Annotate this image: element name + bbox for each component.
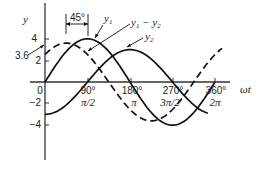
legend-y1-minus-y2: y1 − y2 (130, 16, 161, 30)
y-tick-label: −4 (30, 119, 42, 130)
legend-y2: y2 (144, 30, 154, 44)
peak-value-label: 3.6 (15, 50, 29, 61)
y-axis-label: y (22, 13, 28, 25)
phasor-sine-chart: 45° y1 y1 − y2 y2 y ωt 3.6 4 2 −2 −4 0 9… (0, 0, 272, 169)
x-tick-label: 180° (122, 85, 143, 96)
x-axis-label: ωt (240, 83, 252, 95)
x-tick-label: 0 (37, 85, 43, 96)
phase-bracket-label: 45° (70, 12, 85, 23)
legend-y1: y1 (103, 12, 112, 26)
y-tick-label: −2 (30, 97, 42, 108)
x-rad-label: 2π (209, 96, 221, 108)
x-rad-label: π/2 (81, 96, 96, 108)
x-tick-label: 270° (163, 85, 184, 96)
x-tick-label: 360° (206, 85, 227, 96)
y-tick-label: 4 (31, 33, 37, 44)
x-rad-label: π (131, 96, 137, 108)
x-tick-label: 90° (80, 85, 95, 96)
y-tick-label: 2 (35, 55, 41, 66)
x-rad-label: 3π/2 (159, 96, 180, 108)
